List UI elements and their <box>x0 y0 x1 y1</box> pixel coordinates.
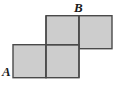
vertex-label-a: A <box>2 65 11 78</box>
top-left-square <box>46 16 79 49</box>
bottom-left-square <box>13 45 46 78</box>
vertex-label-b: B <box>74 1 83 14</box>
geometry-figure: A B <box>0 0 117 86</box>
bottom-right-square <box>46 45 79 78</box>
squares-diagram-svg <box>0 0 117 86</box>
top-right-square <box>79 16 112 49</box>
